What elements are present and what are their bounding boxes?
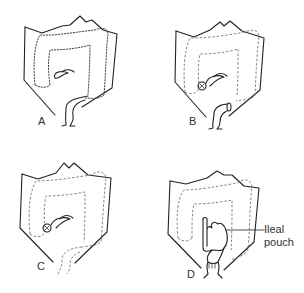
abdomen-diagram-ileal-pouch xyxy=(152,146,304,292)
panel-label-b: B xyxy=(189,115,196,127)
abdomen-diagram-colon-rectum-removed xyxy=(0,146,152,292)
panel-b: B xyxy=(152,0,304,146)
panel-d: Ileal pouch D xyxy=(152,146,304,292)
abdomen-diagram-colon-removed xyxy=(152,0,304,146)
ileal-pouch-callout: Ileal pouch xyxy=(264,223,294,249)
callout-line-1: Ileal xyxy=(264,223,284,235)
panel-a: A xyxy=(0,0,152,146)
panel-label-a: A xyxy=(38,115,45,127)
abdomen-diagram-intact-colon xyxy=(0,0,152,146)
panel-c: C xyxy=(0,146,152,292)
panel-label-c: C xyxy=(37,260,45,272)
callout-line-2: pouch xyxy=(264,236,294,248)
panel-label-d: D xyxy=(187,268,195,280)
